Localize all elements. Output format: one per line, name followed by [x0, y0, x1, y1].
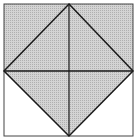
geometry-diagram [0, 0, 137, 140]
